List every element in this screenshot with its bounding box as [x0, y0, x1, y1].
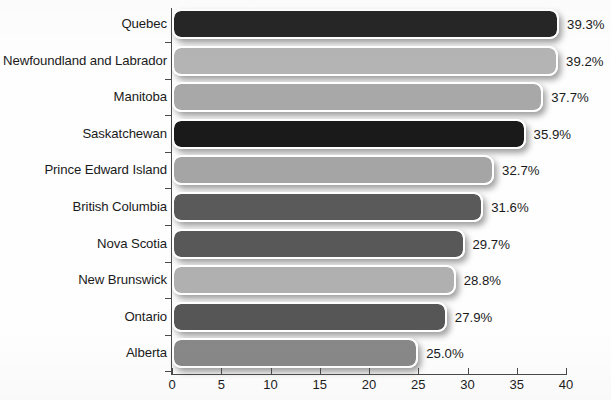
bar-fill	[174, 48, 556, 74]
category-label: New Brunswick	[78, 273, 167, 286]
bar	[172, 46, 558, 76]
category-label: Nova Scotia	[97, 237, 167, 250]
value-label: 31.6%	[491, 201, 528, 214]
value-label: 28.8%	[464, 274, 501, 287]
category-label: Ontario	[124, 310, 167, 323]
bar	[172, 155, 494, 185]
bar	[172, 229, 465, 259]
bar-fill	[174, 231, 463, 257]
category-tick	[165, 42, 171, 43]
value-tick	[517, 368, 518, 374]
value-tick	[221, 368, 222, 374]
value-tick-label: 0	[152, 377, 192, 392]
value-tick	[418, 368, 419, 374]
bar	[172, 302, 447, 332]
bar	[172, 265, 456, 295]
bar	[172, 9, 559, 39]
value-tick-label: 40	[546, 377, 586, 392]
plot-area: Quebec39.3%Newfoundland and Labrador39.2…	[0, 0, 611, 400]
bar	[172, 119, 526, 149]
category-label: Quebec	[121, 17, 167, 30]
value-tick	[320, 368, 321, 374]
category-tick	[165, 262, 171, 263]
value-label: 25.0%	[426, 347, 463, 360]
value-axis-line	[171, 374, 567, 375]
category-axis-line	[171, 8, 172, 374]
bar-fill	[174, 194, 481, 220]
category-label: Saskatchewan	[82, 127, 167, 140]
value-tick	[468, 368, 469, 374]
category-label: Alberta	[126, 346, 167, 359]
value-tick-label: 10	[251, 377, 291, 392]
value-tick	[566, 368, 567, 374]
bar	[172, 192, 483, 222]
value-tick-label: 25	[398, 377, 438, 392]
category-tick	[165, 335, 171, 336]
bar	[172, 82, 543, 112]
value-label: 37.7%	[551, 91, 588, 104]
bar-fill	[174, 157, 492, 183]
bar-fill	[174, 340, 416, 366]
category-label: Manitoba	[114, 90, 167, 103]
value-tick-label: 30	[448, 377, 488, 392]
bar-fill	[174, 304, 445, 330]
bar-fill	[174, 121, 524, 147]
bar-fill	[174, 267, 454, 293]
value-tick-label: 15	[300, 377, 340, 392]
bar-fill	[174, 11, 557, 37]
value-label: 39.2%	[566, 55, 603, 68]
category-tick	[165, 115, 171, 116]
category-tick	[165, 79, 171, 80]
category-tick	[165, 298, 171, 299]
bar-fill	[174, 84, 541, 110]
category-tick	[165, 188, 171, 189]
value-label: 27.9%	[455, 311, 492, 324]
value-tick-label: 20	[349, 377, 389, 392]
bar	[172, 338, 418, 368]
category-label: Newfoundland and Labrador	[3, 54, 167, 67]
value-label: 32.7%	[502, 164, 539, 177]
value-tick	[369, 368, 370, 374]
category-tick	[165, 225, 171, 226]
value-tick-label: 5	[201, 377, 241, 392]
value-label: 39.3%	[567, 18, 604, 31]
value-tick-label: 35	[497, 377, 537, 392]
category-tick	[165, 371, 171, 372]
value-label: 35.9%	[534, 128, 571, 141]
bar-chart: Quebec39.3%Newfoundland and Labrador39.2…	[0, 0, 611, 400]
category-tick	[165, 152, 171, 153]
value-tick	[172, 368, 173, 374]
category-label: Prince Edward Island	[44, 163, 167, 176]
value-label: 29.7%	[473, 238, 510, 251]
category-label: British Columbia	[73, 200, 167, 213]
value-tick	[271, 368, 272, 374]
